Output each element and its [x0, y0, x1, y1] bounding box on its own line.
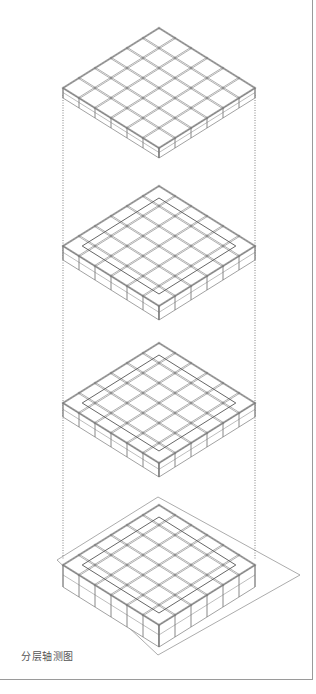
exploded-axonometric-drawing	[0, 0, 316, 694]
layer-4-ground	[62, 504, 256, 647]
diagram-caption: 分层轴测图	[21, 648, 74, 663]
layer-1-top	[62, 27, 256, 158]
layer-2	[62, 185, 256, 320]
layer-3	[62, 342, 256, 477]
